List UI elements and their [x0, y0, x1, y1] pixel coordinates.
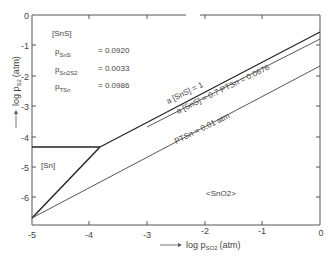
region-sns-label: [SnS]: [52, 29, 72, 38]
svg-text:-1: -1: [258, 226, 266, 236]
svg-text:log pS2(atm): log pS2(atm): [11, 56, 22, 106]
svg-text:= 0.0986: = 0.0986: [98, 81, 130, 90]
svg-text:-6: -6: [21, 193, 29, 203]
x-tick-labels: -5 -4 -3 -2 -1 0: [28, 226, 324, 240]
x-axis-title: log pSO2(atm): [160, 240, 241, 251]
y-axis-title: log pS2(atm): [11, 56, 22, 128]
sn-sno2-boundary: [32, 147, 100, 218]
svg-text:log pSO2(atm): log pSO2(atm): [186, 240, 241, 251]
svg-text:-1: -1: [21, 41, 29, 51]
svg-text:= 0.0033: = 0.0033: [98, 64, 130, 73]
svg-text:-2: -2: [21, 72, 29, 82]
svg-text:-4: -4: [85, 230, 93, 240]
svg-text:-4: -4: [21, 133, 29, 143]
svg-text:0: 0: [24, 11, 29, 21]
svg-text:= 0.0920: = 0.0920: [98, 46, 130, 55]
phase-diagram: -5 -4 -3 -2 -1 0 0 -1 -2 -3 -4 -5 -6 log…: [0, 0, 332, 257]
y-ticks: [32, 45, 320, 197]
line3-label: PTSn = 0.01 atm: [173, 111, 231, 146]
region-sno2-label: <SnO2>: [206, 189, 236, 198]
plot-frame: [32, 15, 320, 225]
svg-text:pTSn: pTSn: [55, 82, 70, 93]
svg-text:0: 0: [318, 228, 323, 238]
line-asns-1: [100, 32, 320, 147]
svg-text:pSnS: pSnS: [55, 47, 71, 58]
svg-text:-5: -5: [21, 163, 29, 173]
region-sn-label: [Sn]: [41, 161, 55, 170]
svg-text:-3: -3: [143, 230, 151, 240]
svg-text:-5: -5: [28, 230, 36, 240]
pressure-annotations: pSnS = 0.0920 pSn2S2 = 0.0033 pTSn = 0.0…: [55, 46, 130, 93]
phase-lines: [32, 32, 320, 218]
svg-text:-2: -2: [201, 226, 209, 236]
svg-text:pSn2S2: pSn2S2: [55, 65, 78, 76]
svg-text:-3: -3: [21, 102, 29, 112]
y-tick-labels: 0 -1 -2 -3 -4 -5 -6: [21, 11, 29, 203]
